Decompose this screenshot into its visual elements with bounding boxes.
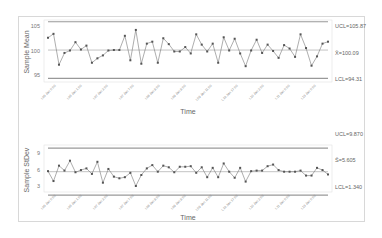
- data-point: [234, 177, 236, 179]
- x-tick-label: L07 Jan 3:00: [92, 84, 109, 101]
- data-point: [272, 50, 274, 52]
- data-point: [190, 52, 192, 54]
- data-point: [113, 49, 115, 51]
- data-point: [184, 46, 186, 48]
- data-point: [272, 164, 274, 166]
- data-point: [195, 33, 197, 35]
- x-tick-label: L09 Jan 8:00: [170, 194, 187, 211]
- series-line: [48, 161, 328, 186]
- stdev-panel: Sample StDev 9 6 3 UCL=9.870 S̄=5.605 LC…: [23, 131, 363, 221]
- data-point: [168, 166, 170, 168]
- mean-y-axis-label: Sample Mean: [23, 30, 31, 73]
- stdev-series: [47, 160, 329, 187]
- mean-plot-area: [44, 20, 332, 82]
- data-point: [311, 175, 313, 177]
- data-point: [173, 171, 175, 173]
- stdev-lcl-label: LCL=1.340: [335, 184, 362, 190]
- data-point: [135, 29, 137, 31]
- data-point: [107, 168, 109, 170]
- data-point: [228, 171, 230, 173]
- data-point: [195, 172, 197, 174]
- data-point: [107, 50, 109, 52]
- x-tick-label: L07 Jan 7:00: [118, 84, 135, 101]
- stdev-x-axis-label: Time: [180, 214, 195, 221]
- data-point: [201, 166, 203, 168]
- data-point: [80, 169, 82, 171]
- stdev-x-ticks: L05 Jan 0:00L06 Jan 1:00L07 Jan 3:00L07 …: [40, 194, 317, 212]
- data-point: [289, 171, 291, 173]
- data-point: [102, 182, 104, 184]
- data-point: [283, 44, 285, 46]
- data-point: [322, 43, 324, 45]
- data-point: [305, 175, 307, 177]
- data-point: [69, 160, 71, 162]
- data-point: [217, 62, 219, 64]
- data-point: [311, 65, 313, 67]
- mean-x-axis-label: Time: [180, 108, 195, 115]
- data-point: [305, 47, 307, 49]
- mean-panel: Sample Mean 105 100 95 UCL=105.87 X̄=100…: [23, 20, 366, 115]
- x-tick-label: L10 Jan 2:00: [248, 194, 265, 211]
- x-tick-label: L07 Jan 7:00: [118, 194, 135, 211]
- data-point: [140, 174, 142, 176]
- data-point: [300, 170, 302, 172]
- x-tick-label: L13 Jan 0:00: [300, 84, 317, 101]
- data-point: [250, 50, 252, 52]
- data-point: [239, 52, 241, 54]
- mean-center-label: X̄=100.09: [335, 50, 359, 56]
- data-point: [124, 176, 126, 178]
- data-point: [245, 181, 247, 183]
- data-point: [223, 36, 225, 38]
- data-point: [278, 169, 280, 171]
- data-point: [151, 164, 153, 166]
- data-point: [85, 45, 87, 47]
- data-point: [162, 37, 164, 39]
- mean-ytick: 95: [34, 72, 40, 78]
- mean-ytick: 105: [31, 23, 40, 29]
- stdev-y-axis-label: Sample StDev: [23, 147, 31, 192]
- x-tick-label: L08 Jan 8:00: [144, 194, 161, 211]
- data-point: [52, 33, 54, 35]
- data-point: [74, 41, 76, 43]
- data-point: [173, 50, 175, 52]
- data-point: [239, 167, 241, 169]
- x-tick-label: L05 Jan 0:00: [40, 194, 57, 211]
- data-point: [69, 50, 71, 52]
- data-point: [179, 50, 181, 52]
- data-point: [102, 54, 104, 56]
- data-point: [250, 170, 252, 172]
- data-point: [63, 170, 65, 172]
- x-tick-label: L10 Jan 17:00: [221, 194, 239, 212]
- data-point: [289, 48, 291, 50]
- data-point: [212, 43, 214, 45]
- data-point: [223, 162, 225, 164]
- data-point: [135, 185, 137, 187]
- data-point: [179, 166, 181, 168]
- x-tick-label: L11 Jan 0:00: [274, 84, 291, 101]
- data-point: [113, 176, 115, 178]
- data-point: [91, 62, 93, 64]
- data-point: [85, 167, 87, 169]
- data-point: [129, 59, 131, 61]
- data-point: [124, 35, 126, 37]
- data-point: [316, 167, 318, 169]
- x-tick-label: L07 Jan 3:00: [92, 194, 109, 211]
- x-tick-label: L09 Jan 11:00: [195, 194, 213, 212]
- data-point: [129, 172, 131, 174]
- data-point: [140, 63, 142, 65]
- data-point: [206, 176, 208, 178]
- x-tick-label: L06 Jan 1:00: [66, 84, 83, 101]
- stdev-ucl-label: UCL=9.870: [335, 131, 363, 137]
- data-point: [267, 165, 269, 167]
- mean-ucl-label: UCL=105.87: [335, 23, 366, 29]
- data-point: [327, 41, 329, 43]
- data-point: [256, 170, 258, 172]
- data-point: [118, 177, 120, 179]
- data-point: [47, 170, 49, 172]
- data-point: [267, 44, 269, 46]
- data-point: [201, 44, 203, 46]
- data-point: [47, 37, 49, 39]
- data-point: [327, 173, 329, 175]
- x-tick-label: L05 Jan 0:00: [40, 84, 57, 101]
- data-point: [146, 167, 148, 169]
